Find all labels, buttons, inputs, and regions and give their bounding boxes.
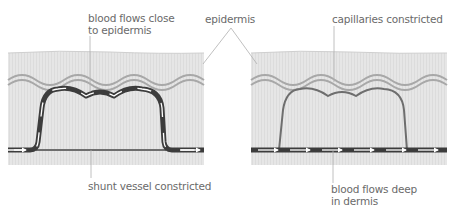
right-panel-skin: [251, 51, 447, 165]
label-blood-deep-line1: blood flows deep: [331, 183, 417, 195]
skin-diagram: [0, 0, 453, 212]
label-blood-deep-line2: in dermis: [331, 195, 417, 207]
label-capillaries-constricted: capillaries constricted: [332, 13, 443, 25]
label-blood-close-line1: blood flows close: [88, 12, 175, 24]
label-blood-deep: blood flows deep in dermis: [331, 183, 417, 207]
label-epidermis: epidermis: [205, 13, 255, 25]
left-panel-skin: [8, 51, 204, 165]
label-blood-close-line2: to epidermis: [88, 24, 175, 36]
label-blood-close: blood flows close to epidermis: [88, 12, 175, 36]
label-shunt-constricted: shunt vessel constricted: [88, 180, 211, 192]
